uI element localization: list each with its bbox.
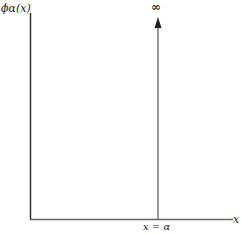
spike-position-label: x = α: [143, 221, 170, 232]
delta-function-diagram: ϕα(x) ∞ x = α x: [0, 0, 242, 234]
plot-area: [0, 0, 242, 234]
x-axis-label: x: [233, 213, 239, 226]
infinity-label: ∞: [151, 0, 161, 14]
arrow-up-icon: [155, 17, 162, 28]
y-axis-label: ϕα(x): [1, 2, 31, 15]
